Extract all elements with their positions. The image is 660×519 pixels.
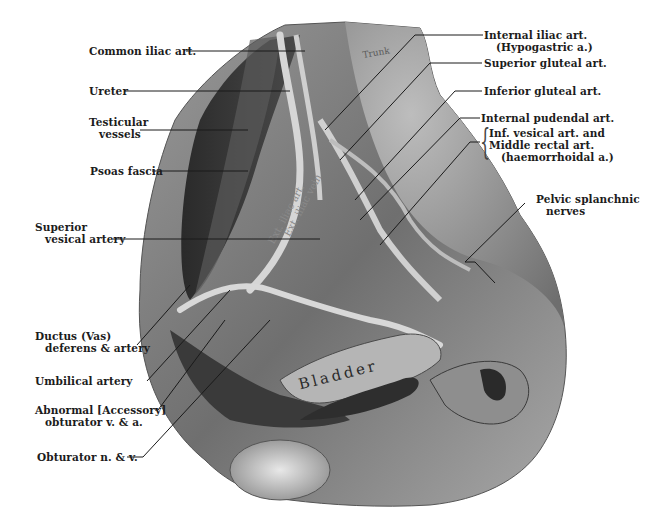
label-text: Testicular bbox=[89, 116, 148, 128]
label-text: (Hypogastric a.) bbox=[484, 41, 593, 53]
label-umbilical-artery: Umbilical artery bbox=[35, 375, 133, 387]
label-text: Inf. vesical art. and bbox=[489, 127, 614, 139]
label-text: nerves bbox=[536, 205, 640, 217]
label-abnormal-obturator: Abnormal [Accessory] obturator v. & a. bbox=[35, 404, 166, 428]
label-text: obturator v. & a. bbox=[35, 416, 166, 428]
label-text: deferens & artery bbox=[35, 342, 150, 354]
label-obturator-n-v: Obturator n. & v. bbox=[37, 451, 138, 463]
label-text: Superior bbox=[35, 221, 125, 233]
label-ureter: Ureter bbox=[89, 85, 128, 97]
label-text: Superior gluteal art. bbox=[484, 57, 607, 69]
label-text: Abnormal [Accessory] bbox=[35, 404, 166, 416]
label-text: Ductus (Vas) bbox=[35, 330, 150, 342]
label-text: Umbilical artery bbox=[35, 375, 133, 387]
label-common-iliac-art: Common iliac art. bbox=[89, 45, 196, 57]
label-ductus-deferens: Ductus (Vas) deferens & artery bbox=[35, 330, 150, 354]
label-inf-vesical-middle-rectal: Inf. vesical art. and Middle rectal art.… bbox=[489, 127, 614, 163]
label-testicular-vessels: Testicular vessels bbox=[89, 116, 148, 140]
label-text: Ureter bbox=[89, 85, 128, 97]
label-pelvic-splanchnic-nerves: Pelvic splanchnic nerves bbox=[536, 193, 640, 217]
label-text: Internal iliac art. bbox=[484, 29, 593, 41]
label-text: Pelvic splanchnic bbox=[536, 193, 640, 205]
label-text: Common iliac art. bbox=[89, 45, 196, 57]
pubic-bone-section bbox=[230, 440, 330, 500]
label-superior-vesical-artery: Superior vesical artery bbox=[35, 221, 125, 245]
label-text: Middle rectal art. bbox=[489, 139, 614, 151]
label-text: vessels bbox=[89, 128, 148, 140]
label-inferior-gluteal-art: Inferior gluteal art. bbox=[484, 85, 601, 97]
label-text: (haemorrhoidal a.) bbox=[489, 151, 614, 163]
label-text: Psoas fascia bbox=[90, 165, 163, 177]
label-internal-iliac-art: Internal iliac art. (Hypogastric a.) bbox=[484, 29, 593, 53]
label-text: Internal pudendal art. bbox=[481, 112, 614, 124]
label-text: Obturator n. & v. bbox=[37, 451, 138, 463]
label-internal-pudendal-art: Internal pudendal art. bbox=[481, 112, 614, 124]
label-psoas-fascia: Psoas fascia bbox=[90, 165, 163, 177]
label-superior-gluteal-art: Superior gluteal art. bbox=[484, 57, 607, 69]
anatomical-illustration: Bladder Ext. iliac vein Ext. iliac art. … bbox=[0, 0, 660, 519]
label-text: vesical artery bbox=[35, 233, 125, 245]
label-text: Inferior gluteal art. bbox=[484, 85, 601, 97]
